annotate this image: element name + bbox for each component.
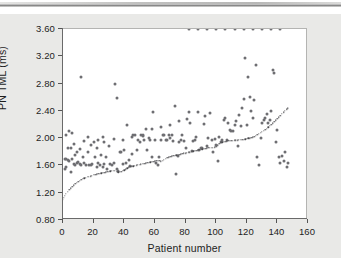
x-tick-mark <box>123 219 124 223</box>
x-tick-mark <box>154 219 155 223</box>
x-tick-label: 120 <box>238 226 254 237</box>
x-tick-label: 80 <box>179 226 190 237</box>
x-tick-mark <box>276 219 277 223</box>
x-tick-layer: 020406080100120140160 <box>0 14 341 258</box>
x-tick-label: 60 <box>149 226 160 237</box>
x-tick-mark <box>215 219 216 223</box>
figure-page: 0.801.201.602.002.402.803.203.60 0204060… <box>0 0 341 266</box>
x-tick-mark <box>307 219 308 223</box>
x-tick-label: 140 <box>268 226 284 237</box>
x-axis-label: Patient number <box>62 242 307 254</box>
x-tick-label: 160 <box>299 226 315 237</box>
x-tick-label: 40 <box>118 226 129 237</box>
x-tick-mark <box>62 219 63 223</box>
x-tick-label: 20 <box>87 226 98 237</box>
x-tick-mark <box>93 219 94 223</box>
x-tick-mark <box>185 219 186 223</box>
y-axis-label: PN TML (ms) <box>0 46 8 110</box>
scatter-figure: 0.801.201.602.002.402.803.203.60 0204060… <box>0 14 341 258</box>
x-tick-label: 100 <box>207 226 223 237</box>
x-tick-mark <box>246 219 247 223</box>
x-tick-label: 0 <box>59 226 64 237</box>
page-edge-rule <box>0 4 341 7</box>
